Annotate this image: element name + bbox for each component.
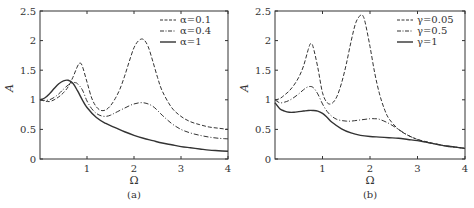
- panel-a-caption: (a): [127, 189, 141, 200]
- panel-b-legend: γ=0.05γ=0.5γ=1: [397, 14, 454, 47]
- figure: 00.511.522.5 1234 A Ω (a) α=0.1α=0.4α=1 …: [0, 0, 474, 208]
- panel-b-x-axis-label: Ω: [365, 174, 374, 187]
- y-tick-label: 2.5: [20, 6, 36, 17]
- y-tick-label: 0.5: [255, 124, 271, 135]
- y-tick-label: 0.5: [20, 124, 36, 135]
- series-line-solid: [40, 80, 228, 151]
- y-tick-label: 1.5: [255, 65, 271, 76]
- y-tick-label: 0: [265, 154, 271, 165]
- y-tick-label: 1: [265, 94, 271, 105]
- legend-label: γ=0.05: [417, 14, 454, 25]
- panel-a-y-axis-label: A: [3, 84, 16, 93]
- legend-label: α=0.1: [180, 14, 211, 25]
- panel-a-legend: α=0.1α=0.4α=1: [160, 14, 211, 47]
- y-tick-label: 1: [30, 94, 36, 105]
- legend-label: γ=1: [417, 36, 438, 47]
- panel-b-chart: 00.511.522.5 1234 A Ω (b) γ=0.05γ=0.5γ=1: [238, 6, 468, 201]
- y-tick-label: 0: [30, 154, 36, 165]
- series-line-solid: [275, 103, 465, 149]
- x-tick-label: 4: [462, 163, 468, 174]
- series-line-dashed: [40, 39, 228, 129]
- legend-label: γ=0.5: [417, 25, 447, 36]
- legend-label: α=0.4: [180, 25, 211, 36]
- panel-a-x-axis-label: Ω: [129, 174, 138, 187]
- series-line-dashdot: [275, 86, 465, 148]
- panel-b-y-axis-label: A: [238, 84, 251, 93]
- panel-a-curves: [40, 39, 228, 151]
- y-tick-label: 2: [265, 35, 271, 46]
- x-tick-label: 4: [225, 163, 231, 174]
- x-tick-label: 3: [178, 163, 184, 174]
- x-tick-label: 1: [319, 163, 325, 174]
- x-tick-label: 3: [414, 163, 420, 174]
- panel-b-caption: (b): [363, 189, 377, 200]
- x-tick-label: 2: [367, 163, 373, 174]
- x-tick-label: 1: [84, 163, 90, 174]
- y-tick-label: 1.5: [20, 65, 36, 76]
- legend-label: α=1: [180, 36, 202, 47]
- y-tick-label: 2.5: [255, 6, 271, 17]
- y-tick-label: 2: [30, 35, 36, 46]
- series-line-dashdot: [40, 82, 228, 138]
- x-tick-label: 2: [131, 163, 137, 174]
- panel-a-chart: 00.511.522.5 1234 A Ω (a) α=0.1α=0.4α=1: [3, 6, 231, 201]
